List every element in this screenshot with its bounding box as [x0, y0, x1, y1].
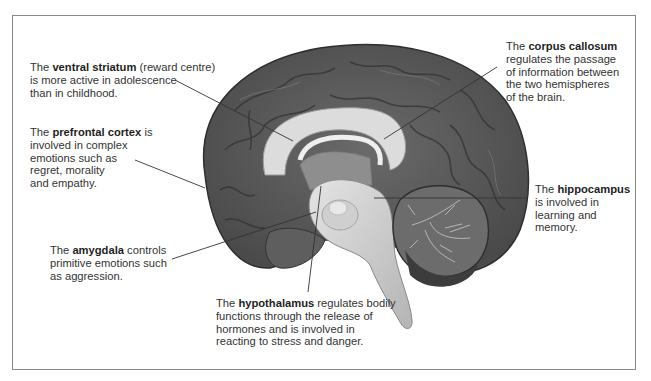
term-corpus-callosum: corpus callosum: [528, 40, 617, 52]
term-amygdala: amygdala: [72, 244, 124, 256]
label-corpus-callosum: The corpus callosum regulates the passag…: [506, 40, 619, 104]
label-amygdala: The amygdala controls primitive emotions…: [50, 244, 167, 282]
label-hypothalamus: The hypothalamus regulates bodily functi…: [216, 297, 396, 348]
term-ventral-striatum: ventral striatum: [52, 61, 136, 73]
term-prefrontal-cortex: prefrontal cortex: [52, 126, 141, 138]
label-prefrontal-cortex: The prefrontal cortex is involved in com…: [30, 126, 152, 190]
term-hippocampus: hippocampus: [557, 183, 630, 195]
term-hypothalamus: hypothalamus: [238, 297, 314, 309]
label-hippocampus: The hippocampus is involved in learning …: [535, 183, 630, 234]
cerebellum: [393, 186, 488, 277]
label-ventral-striatum: The ventral striatum (reward centre) is …: [30, 61, 215, 99]
